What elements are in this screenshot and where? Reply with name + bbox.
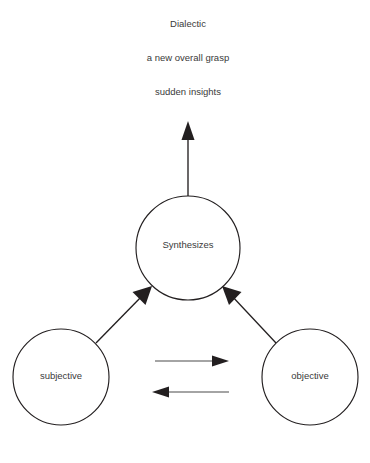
edge-objective-to-subjective — [152, 387, 229, 398]
edge-subjective-to-objective-arrowhead — [212, 356, 229, 367]
edge-objective-to-subjective-arrowhead — [152, 387, 169, 398]
node-subjective[interactable]: subjective — [13, 329, 109, 425]
node-subjective-label: subjective — [40, 370, 82, 381]
diagram-canvas: Dialectic a new overall grasp sudden ins… — [0, 0, 370, 463]
edge-synthesizes-up-arrowhead — [182, 121, 195, 140]
node-objective-label: objective — [291, 370, 329, 381]
dialectic-diagram: Dialectic a new overall grasp sudden ins… — [0, 0, 370, 463]
edge-subjective-to-synthesizes-line — [96, 295, 143, 343]
caption-a-new-overall-grasp: a new overall grasp — [147, 52, 229, 63]
node-objective[interactable]: objective — [262, 329, 358, 425]
caption-sudden-insights: sudden insights — [155, 86, 221, 97]
node-synthesizes-label: Synthesizes — [162, 239, 213, 250]
edge-objective-to-synthesizes — [222, 286, 276, 343]
node-synthesizes[interactable]: Synthesizes — [136, 196, 240, 300]
edge-objective-to-synthesizes-line — [231, 295, 276, 343]
edge-subjective-to-synthesizes — [96, 286, 152, 343]
edge-synthesizes-up — [182, 121, 195, 197]
edge-subjective-to-objective — [155, 356, 229, 367]
caption-title: Dialectic — [170, 18, 206, 29]
